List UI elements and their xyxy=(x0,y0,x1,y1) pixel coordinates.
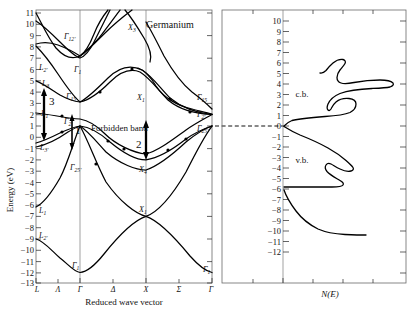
ytick-right-16: −6 xyxy=(272,184,281,194)
label-X-1-upper: X1 xyxy=(136,93,145,103)
label-gamma-15-right: Γ15 xyxy=(196,93,207,103)
ytick-left-4: 7 xyxy=(30,53,34,63)
left-panel-x-axis-label: Reduced wave vector xyxy=(85,297,162,307)
label-L-3: L3 xyxy=(41,79,49,89)
density-of-states-curve-group xyxy=(284,59,393,235)
transition-label-1: 1 xyxy=(75,124,81,136)
ytick-left-23: −12 xyxy=(21,268,34,278)
label-gamma-2-prime-right: Γ2′ xyxy=(196,110,206,120)
transition-label-3: 3 xyxy=(49,95,55,107)
ytick-left-16: −5 xyxy=(25,189,34,199)
ytick-right-12: −2 xyxy=(272,142,281,152)
right-panel-frame xyxy=(222,10,406,283)
xtick-Sigma: Σ xyxy=(176,285,182,294)
ytick-left-7: 4 xyxy=(30,87,35,97)
ytick-left-0: 11 xyxy=(26,8,34,18)
ytick-left-10: 1 xyxy=(30,121,34,131)
ytick-left-22: −11 xyxy=(21,257,34,267)
right-panel-y-ticks xyxy=(283,21,406,273)
conduction-band-upper-left-curve xyxy=(36,10,120,56)
dos-lowest-valence-band-curve xyxy=(284,190,366,235)
ytick-right-2: 8 xyxy=(277,37,281,47)
valence-band-region-label: v.b. xyxy=(296,155,309,165)
label-L-3-prime: L3′ xyxy=(39,143,49,153)
ytick-right-14: −4 xyxy=(272,163,282,173)
ytick-left-17: −6 xyxy=(25,200,34,210)
ytick-right-21: −11 xyxy=(268,237,281,247)
ytick-right-13: −3 xyxy=(272,153,281,163)
xtick-L: L xyxy=(34,285,40,294)
left-panel-y-tick-labels: 11 10 9 8 7 6 5 4 3 2 1 0 −1 −2 −3 −4 −5… xyxy=(21,8,35,288)
ytick-left-13: −2 xyxy=(25,155,34,165)
xtick-X: X xyxy=(143,285,150,294)
transition-arrow-1 xyxy=(70,114,75,150)
xtick-Lambda: Λ xyxy=(55,285,61,294)
figure-container: 11 10 9 8 7 6 5 4 3 2 1 0 −1 −2 −3 −4 −5… xyxy=(0,0,411,315)
ytick-left-1: 10 xyxy=(26,19,35,29)
label-X-3: X3 xyxy=(127,23,136,33)
ytick-left-21: −10 xyxy=(21,245,34,255)
conduction-band-region-label: c.b. xyxy=(296,89,309,99)
ytick-right-19: −9 xyxy=(272,216,281,226)
xtick-Gamma-right: Γ xyxy=(208,285,214,294)
forbidden-band-label: Forbidden band xyxy=(91,123,148,133)
ytick-left-6: 5 xyxy=(30,76,34,86)
germanium-band-structure-figure: 11 10 9 8 7 6 5 4 3 2 1 0 −1 −2 −3 −4 −5… xyxy=(0,0,411,315)
label-L-1-lower: L1 xyxy=(38,206,46,216)
band-structure-curves xyxy=(36,10,212,273)
label-gamma-25-prime-right: Γ25′ xyxy=(196,124,209,134)
right-panel-y-tick-labels: 10 9 8 7 6 5 4 3 2 1 0 −1 −2 −3 −4 −5 −6… xyxy=(268,16,282,257)
label-gamma-12-prime: Γ12′ xyxy=(63,32,76,42)
label-L-2-prime-lower: L2′ xyxy=(38,231,48,241)
valence-band-lowest-curve xyxy=(36,216,212,272)
ytick-left-12: −1 xyxy=(25,144,34,154)
xtick-Delta: Δ xyxy=(110,285,116,294)
ytick-right-3: 7 xyxy=(277,48,281,58)
conduction-band-right-descend-curve xyxy=(146,22,212,109)
figure-title: Germanium xyxy=(146,19,194,30)
transition-label-2: 2 xyxy=(136,138,142,150)
ytick-left-8: 3 xyxy=(30,98,34,108)
label-X-4: X4 xyxy=(138,165,147,175)
ytick-left-18: −7 xyxy=(25,211,34,221)
label-gamma-1-right: Γ1 xyxy=(202,265,211,275)
conduction-band-x3-upper-curve xyxy=(125,10,151,62)
ytick-right-18: −8 xyxy=(272,205,281,215)
left-panel-x-ticks xyxy=(36,278,212,283)
ytick-right-9: 1 xyxy=(277,111,281,121)
ytick-right-1: 9 xyxy=(277,27,281,37)
ytick-left-5: 6 xyxy=(30,65,34,75)
ytick-left-19: −8 xyxy=(25,223,34,233)
ytick-left-14: −3 xyxy=(25,166,34,176)
ytick-left-11: 0 xyxy=(30,132,34,142)
label-X-1-lower: X1 xyxy=(138,205,147,215)
conduction-band-x3-curve xyxy=(36,46,212,115)
ytick-left-15: −4 xyxy=(25,178,35,188)
label-L-2-prime-upper: L2′ xyxy=(38,63,48,73)
ytick-right-8: 2 xyxy=(277,100,281,110)
ytick-right-17: −7 xyxy=(272,195,281,205)
dos-valence-band-curve xyxy=(284,127,353,188)
ytick-right-0: 10 xyxy=(273,16,282,26)
ytick-right-10: 0 xyxy=(277,121,281,131)
label-gamma-15-center: Γ15 xyxy=(65,92,76,102)
ytick-left-2: 9 xyxy=(30,31,34,41)
ytick-right-22: −12 xyxy=(268,247,281,257)
ytick-right-6: 4 xyxy=(277,79,282,89)
ytick-left-3: 8 xyxy=(30,42,34,52)
left-panel-x-tick-labels: L Λ Γ Δ X Σ Γ xyxy=(34,285,214,294)
ytick-left-24: −13 xyxy=(21,278,34,288)
ytick-right-4: 6 xyxy=(277,58,281,68)
ytick-left-20: −9 xyxy=(25,234,34,244)
label-gamma-1-lower: Γ1 xyxy=(71,261,80,271)
left-panel-y-axis-label: Energy (eV) xyxy=(5,168,15,213)
ytick-right-5: 5 xyxy=(277,69,281,79)
xtick-Gamma-center: Γ xyxy=(77,285,83,294)
right-panel-x-axis-label: N(E) xyxy=(320,289,339,299)
ytick-right-11: −1 xyxy=(272,132,281,142)
ytick-right-7: 3 xyxy=(277,90,281,100)
ytick-left-9: 2 xyxy=(30,110,34,120)
ytick-right-15: −5 xyxy=(272,174,281,184)
label-L-1-upper: L1 xyxy=(40,109,48,119)
ytick-right-20: −10 xyxy=(268,226,281,236)
